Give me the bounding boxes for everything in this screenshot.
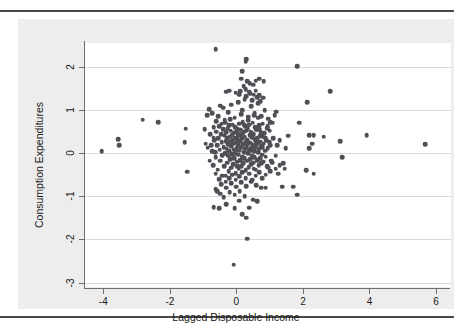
data-point	[229, 181, 234, 186]
data-point	[219, 182, 224, 187]
y-tick-label: 0	[65, 150, 76, 156]
data-point	[297, 121, 302, 126]
data-point	[244, 184, 249, 189]
data-point	[231, 262, 236, 267]
data-point	[241, 84, 246, 89]
data-point	[229, 102, 234, 107]
y-tick-mark	[79, 153, 84, 154]
data-point	[239, 77, 244, 82]
gridline	[85, 110, 451, 111]
data-point	[234, 136, 239, 141]
gridline	[85, 153, 451, 154]
gridline	[85, 196, 451, 197]
data-point	[238, 89, 243, 94]
data-point	[207, 159, 212, 164]
data-point	[217, 206, 222, 211]
x-tick-label: -4	[99, 296, 108, 307]
x-axis-title: Lagged Disposable Income	[18, 311, 454, 323]
data-point	[277, 138, 282, 143]
x-tick-mark	[369, 289, 370, 294]
data-point	[232, 115, 237, 120]
data-point	[185, 169, 190, 174]
x-tick-label: -2	[165, 296, 174, 307]
data-point	[117, 143, 122, 148]
y-axis-title: Consumption Expenditures	[33, 102, 45, 228]
data-point	[218, 103, 223, 108]
data-point	[249, 179, 254, 184]
data-point	[232, 206, 237, 211]
data-point	[273, 153, 278, 158]
data-point	[224, 90, 229, 95]
data-point	[223, 179, 228, 184]
data-point	[245, 79, 250, 84]
data-point	[99, 149, 104, 154]
data-point	[338, 139, 343, 144]
x-tick-label: 2	[300, 296, 306, 307]
data-point	[254, 183, 259, 188]
data-point	[282, 166, 287, 171]
y-tick-label: -1	[65, 192, 76, 201]
data-point	[305, 100, 310, 105]
data-point	[233, 178, 238, 183]
data-point	[248, 91, 253, 96]
data-point	[252, 113, 257, 118]
document-rule-top	[0, 10, 454, 12]
data-point	[262, 108, 267, 113]
data-point	[270, 160, 275, 165]
data-point	[255, 199, 260, 204]
data-point	[213, 172, 218, 177]
data-point	[232, 192, 237, 197]
y-tick-mark	[79, 283, 84, 284]
data-point	[246, 118, 251, 123]
data-point	[263, 185, 268, 190]
data-point	[224, 202, 229, 207]
data-point	[239, 180, 244, 185]
data-point	[242, 122, 247, 127]
x-tick-mark	[103, 289, 104, 294]
y-tick-label: -2	[65, 235, 76, 244]
data-point	[213, 47, 218, 52]
data-point	[209, 143, 214, 148]
gridline	[85, 239, 451, 240]
data-point	[274, 109, 279, 114]
y-tick-label: -3	[65, 278, 76, 287]
data-point	[211, 135, 216, 140]
data-point	[244, 216, 249, 221]
data-point	[307, 146, 312, 151]
data-point	[260, 176, 265, 181]
data-point	[311, 133, 316, 138]
data-point	[211, 163, 216, 168]
data-point	[140, 118, 145, 123]
y-tick-label: 1	[65, 107, 76, 113]
data-point	[240, 108, 245, 113]
graph-region: 210-1-2-3 -4-20246 Consumption Expenditu…	[18, 19, 454, 309]
x-tick-mark	[170, 289, 171, 294]
data-point	[260, 121, 265, 126]
data-point	[256, 115, 261, 120]
data-point	[210, 111, 215, 116]
x-tick-mark	[303, 289, 304, 294]
data-point	[245, 236, 250, 241]
data-point	[219, 121, 224, 126]
data-point	[291, 185, 296, 190]
data-point	[202, 127, 207, 132]
data-point	[184, 126, 189, 131]
data-point	[263, 135, 268, 140]
y-tick-mark	[79, 110, 84, 111]
data-point	[251, 166, 256, 171]
data-point	[156, 120, 161, 125]
x-tick-label: 4	[367, 296, 373, 307]
data-point	[242, 194, 247, 199]
data-point	[205, 113, 210, 118]
y-tick-mark	[79, 67, 84, 68]
data-point	[237, 189, 242, 194]
data-point	[213, 187, 218, 192]
data-point	[236, 100, 241, 105]
data-point	[261, 79, 266, 84]
data-point	[116, 137, 121, 142]
data-point	[247, 205, 252, 210]
y-axis-line	[84, 41, 85, 289]
data-point	[217, 177, 222, 182]
y-tick-mark	[79, 196, 84, 197]
data-point	[250, 98, 255, 103]
